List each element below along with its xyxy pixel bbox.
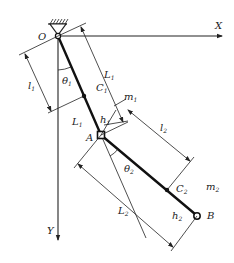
x-axis-label: X [214, 20, 223, 31]
L1-short-label: L1 [71, 116, 82, 128]
link-1-extension [101, 135, 146, 238]
L1-dimension-line [81, 27, 123, 122]
L1-long-label: L1 [103, 69, 114, 81]
y-axis-label: Y [47, 225, 55, 236]
joint-b-label: B [206, 210, 214, 221]
origin-label: O [38, 31, 46, 42]
theta1-label: θ1 [62, 75, 72, 87]
theta2-arc [110, 149, 118, 156]
l2-label: l2 [160, 122, 167, 134]
h1-label: h1 [100, 114, 110, 126]
m2-label: m2 [206, 181, 219, 193]
link-2 [101, 135, 195, 214]
c2-label: C2 [176, 183, 188, 195]
L2-ext-bottom [171, 216, 197, 251]
m1-label: m1 [124, 91, 137, 103]
h2-label: h2 [172, 210, 182, 222]
joint-a-label: A [85, 132, 93, 143]
l1-label: l1 [28, 80, 35, 92]
theta2-label: θ2 [124, 163, 134, 175]
L2-dimension-line [78, 164, 173, 247]
theta1-arc [58, 67, 71, 70]
l2-dimension-line [128, 110, 190, 161]
pendulum-diagram: X Y O A B C1 C2 θ1 θ2 l1 L1 L1 h1 m1 l2 [0, 0, 234, 263]
l1-ext-bottom [48, 96, 84, 113]
